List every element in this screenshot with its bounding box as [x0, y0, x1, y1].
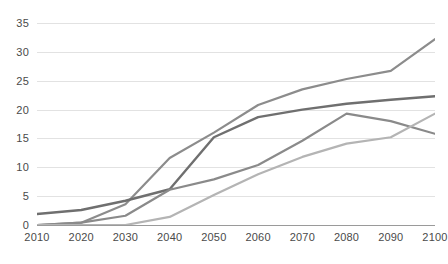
x-axis-tick-label: 2040 [157, 231, 182, 243]
x-axis-tick-label: 2100 [422, 231, 447, 243]
y-axis: 05101520253035 [0, 23, 33, 225]
x-axis-tick-label: 2090 [378, 231, 403, 243]
x-axis-tick-label: 2050 [201, 231, 226, 243]
series-line-series-1 [37, 39, 435, 225]
y-axis-tick-label: 35 [16, 17, 29, 29]
series-layer [37, 23, 435, 225]
x-axis-tick-label: 2070 [290, 231, 315, 243]
x-axis: 2010202020302040205020602070208020902100 [37, 231, 435, 253]
x-axis-tick-label: 2030 [113, 231, 138, 243]
y-axis-tick-label: 25 [16, 75, 29, 87]
y-axis-tick-label: 20 [16, 104, 29, 116]
series-line-series-4 [37, 114, 435, 225]
series-line-series-2 [37, 96, 435, 214]
x-axis-tick-label: 2010 [24, 231, 49, 243]
series-line-series-3 [37, 114, 435, 225]
y-axis-tick-label: 0 [23, 219, 29, 231]
y-axis-tick-label: 5 [23, 190, 29, 202]
axis-line-zero [37, 225, 435, 226]
y-axis-tick-label: 10 [16, 161, 29, 173]
x-axis-tick-label: 2020 [69, 231, 94, 243]
plot-area [37, 23, 435, 225]
y-axis-tick-label: 15 [16, 132, 29, 144]
x-axis-tick-label: 2060 [245, 231, 270, 243]
y-axis-tick-label: 30 [16, 46, 29, 58]
x-axis-tick-label: 2080 [334, 231, 359, 243]
